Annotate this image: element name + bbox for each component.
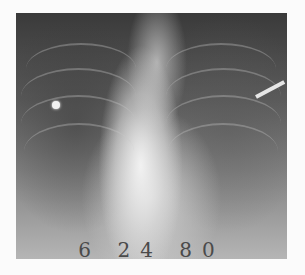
xray-film: 6 24 80 [16, 13, 287, 259]
date-label: 6 24 80 [16, 238, 287, 259]
rib-shadow [24, 123, 134, 180]
rib-shadow [168, 123, 278, 180]
radiopaque-marker [52, 101, 60, 109]
